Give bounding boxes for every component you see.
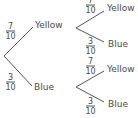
outcome-label-blue: Blue <box>108 39 128 49</box>
denominator: 10 <box>85 6 95 15</box>
numerator: 3 <box>8 73 13 82</box>
denominator: 10 <box>5 32 15 41</box>
second-stage-after-yellow: 7 10 Yellow 3 10 Blue <box>76 0 135 56</box>
outcome-label-yellow: Yellow <box>34 20 63 30</box>
outcome-label-yellow: Yellow <box>106 64 135 74</box>
denominator: 10 <box>5 83 15 92</box>
fraction-blue-yellow: 7 10 <box>85 57 95 76</box>
denominator: 10 <box>85 107 95 116</box>
numerator: 7 <box>88 57 93 66</box>
fraction-yellow-yellow: 7 10 <box>85 0 95 15</box>
outcome-label-blue: Blue <box>108 99 128 109</box>
denominator: 10 <box>85 47 95 56</box>
fraction-first-blue: 3 10 <box>5 73 15 92</box>
numerator: 7 <box>8 22 13 31</box>
fraction-first-yellow: 7 10 <box>5 22 15 41</box>
second-stage-after-blue: 7 10 Yellow 3 10 Blue <box>76 57 135 116</box>
numerator: 3 <box>88 37 93 46</box>
outcome-label-blue: Blue <box>34 82 54 92</box>
fraction-yellow-blue: 3 10 <box>85 37 95 56</box>
denominator: 10 <box>85 67 95 76</box>
fraction-blue-blue: 3 10 <box>85 97 95 116</box>
probability-tree-diagram: 7 10 Yellow 3 10 Blue 7 10 Yellow 3 10 B… <box>0 0 138 118</box>
numerator: 7 <box>88 0 93 5</box>
numerator: 3 <box>88 97 93 106</box>
first-stage: 7 10 Yellow 3 10 Blue <box>4 20 63 92</box>
outcome-label-yellow: Yellow <box>106 3 135 13</box>
